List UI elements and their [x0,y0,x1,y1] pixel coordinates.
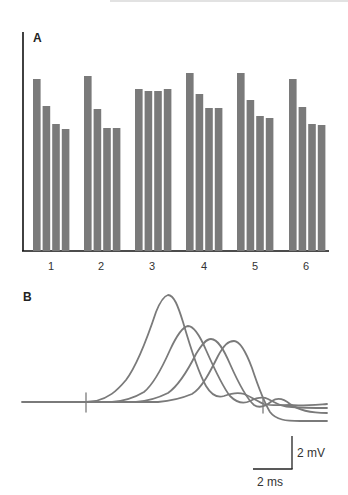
bar-group-4-bar-1 [186,73,194,251]
bar-group-4-bar-4 [215,108,223,251]
bar-group-5-bar-2 [247,100,255,251]
bar-group-6-bar-3 [308,124,316,251]
bar-group-2-bar-3 [103,128,111,251]
bar-group-6-bar-2 [299,107,307,251]
scale-bar: 2 mV 2 ms [253,436,325,489]
panel-a-label: A [33,31,42,45]
bar-group-6-bar-4 [318,125,326,251]
traces [22,295,327,421]
x-tick-6: 6 [303,260,309,272]
x-tick-1: 1 [48,260,54,272]
bar-group-5-bar-3 [256,116,264,251]
panel-a: A 1 2 3 4 5 6 [22,31,329,272]
x-tick-3: 3 [149,260,155,272]
x-tick-labels: 1 2 3 4 5 6 [48,260,309,272]
bar-group-2-bar-4 [113,128,121,251]
x-tick-4: 4 [201,260,207,272]
panel-b-label: B [23,290,32,304]
figure: A 1 2 3 4 5 6 B [0,0,348,495]
bar-group-3-bar-2 [145,91,153,251]
bar-series [33,73,325,251]
bar-group-2-bar-1 [84,76,92,251]
scale-bar-voltage-label: 2 mV [297,446,325,460]
bar-group-3-bar-1 [135,89,143,251]
bar-group-4-bar-2 [196,94,204,251]
bar-group-3-bar-4 [164,89,172,251]
bar-group-6-bar-1 [289,79,297,251]
scale-bar-time-label: 2 ms [257,475,283,489]
bar-group-4-bar-3 [205,108,213,251]
panel-b: B 2 mV 2 ms [22,290,327,489]
bar-group-1-bar-4 [62,129,70,251]
x-tick-2: 2 [98,260,104,272]
bar-group-1-bar-3 [52,124,60,251]
bar-group-5-bar-4 [266,118,274,251]
bar-group-1-bar-1 [33,79,41,251]
bar-group-5-bar-1 [237,73,245,251]
bar-group-1-bar-2 [43,106,51,251]
x-tick-5: 5 [252,260,258,272]
bar-group-2-bar-2 [94,109,102,251]
bar-group-3-bar-3 [154,91,162,251]
